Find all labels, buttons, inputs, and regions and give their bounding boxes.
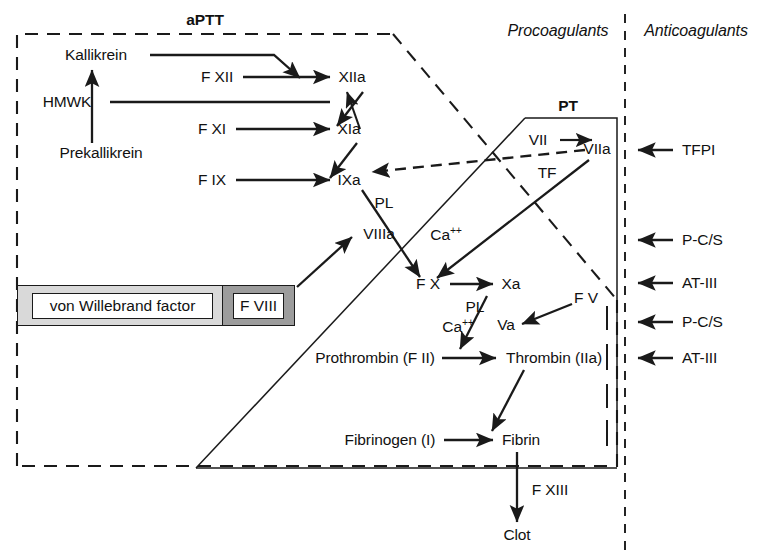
coagulation-cascade-diagram: aPTT PT Procoagulants Anticoagulants Kal… <box>0 0 762 560</box>
factor-xii-label: F XII <box>201 69 233 85</box>
fibrinogen-label: Fibrinogen (I) <box>345 432 436 448</box>
factor-x-label: F X <box>416 276 440 292</box>
pt-region-label: PT <box>558 98 578 114</box>
factor-vii-label: VII <box>529 132 548 148</box>
von-willebrand-factor-label: von Willebrand factor <box>32 293 213 319</box>
factor-ix-label: F IX <box>198 172 226 188</box>
factor-viia-label: VIIa <box>583 141 610 157</box>
clot-label: Clot <box>503 527 530 543</box>
aptt-region-label: aPTT <box>186 12 224 28</box>
prothrombin-label: Prothrombin (F II) <box>315 350 435 366</box>
anticoagulant-arrows <box>638 150 673 358</box>
anticoagulant-at-iii-upper-label: AT-III <box>682 275 717 291</box>
phospholipid-upper-label: PL <box>375 195 394 211</box>
factor-ixa-label: IXa <box>338 172 361 188</box>
von-willebrand-factor-box: von Willebrand factor <box>17 285 228 326</box>
aptt-region-outline <box>17 34 617 466</box>
f-viii-box: F VIII <box>222 285 295 326</box>
factor-xiii-label: F XIII <box>532 482 568 498</box>
procoagulants-label: Procoagulants <box>508 23 609 39</box>
anticoagulants-label: Anticoagulants <box>644 23 748 39</box>
calcium-lower-label: Ca++ <box>442 317 473 335</box>
phospholipid-lower-label: PL <box>466 299 485 315</box>
calcium-lower-text: Ca <box>442 318 462 335</box>
f-viii-label: F VIII <box>233 293 284 319</box>
hmwk-label: HMWK <box>43 94 92 110</box>
fibrin-label: Fibrin <box>502 432 540 448</box>
tissue-factor-label: TF <box>538 165 557 181</box>
prekallikrein-label: Prekallikrein <box>59 145 142 161</box>
thrombin-label: Thrombin (IIa) <box>506 350 602 366</box>
factor-xiia-label: XIIa <box>338 69 365 85</box>
cascade-line-art <box>0 0 762 560</box>
calcium-upper-text: Ca <box>430 226 450 243</box>
factor-xa-label: Xa <box>502 276 521 292</box>
anticoagulant-at-iii-lower-label: AT-III <box>682 350 717 366</box>
factor-v-label: F V <box>574 290 598 306</box>
factor-xia-label: XIa <box>338 121 361 137</box>
factor-viiia-label: VIIIa <box>363 226 394 242</box>
anticoagulant-protein-cs-lower-label: P-C/S <box>682 314 723 330</box>
kallikrein-label: Kallikrein <box>65 47 127 63</box>
anticoagulant-protein-cs-upper-label: P-C/S <box>682 232 723 248</box>
anticoagulant-tfpi-label: TFPI <box>682 142 715 158</box>
calcium-upper-label: Ca++ <box>430 225 461 243</box>
factor-va-label: Va <box>497 317 515 333</box>
calcium-lower-charge: ++ <box>462 316 474 328</box>
factor-xi-label: F XI <box>198 121 226 137</box>
calcium-upper-charge: ++ <box>450 224 462 236</box>
